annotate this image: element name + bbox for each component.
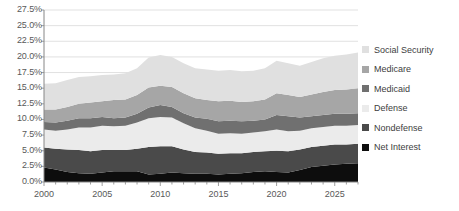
legend-label: Net Interest [374,142,421,152]
x-tick-label: 2025 [325,190,345,199]
x-tick-label: 2015 [208,190,228,199]
legend-item-medicaid[interactable]: Medicaid [362,79,459,99]
legend-swatch-icon [362,46,369,53]
stacked-area-chart: 0.0%2.5%5.0%7.5%10.0%12.5%15.0%17.5%20.0… [0,0,459,211]
legend-swatch-icon [362,105,369,112]
legend-swatch-icon [362,124,369,131]
legend-item-defense[interactable]: Defense [362,99,459,119]
legend-item-medicare[interactable]: Medicare [362,60,459,80]
legend-swatch-icon [362,85,369,92]
legend-label: Nondefense [374,123,423,133]
legend-item-social-security[interactable]: Social Security [362,40,459,60]
legend-swatch-icon [362,144,369,151]
legend-label: Defense [374,103,408,113]
legend-label: Social Security [374,45,434,55]
chart-legend: Social SecurityMedicareMedicaidDefenseNo… [362,40,459,157]
legend-swatch-icon [362,66,369,73]
legend-label: Medicare [374,64,411,74]
legend-label: Medicaid [374,84,410,94]
legend-item-net-interest[interactable]: Net Interest [362,138,459,158]
x-tick-label: 2020 [267,190,287,199]
x-tick-label: 2010 [150,190,170,199]
x-tick-label: 2000 [34,190,54,199]
legend-item-nondefense[interactable]: Nondefense [362,118,459,138]
x-tick-label: 2005 [92,190,112,199]
